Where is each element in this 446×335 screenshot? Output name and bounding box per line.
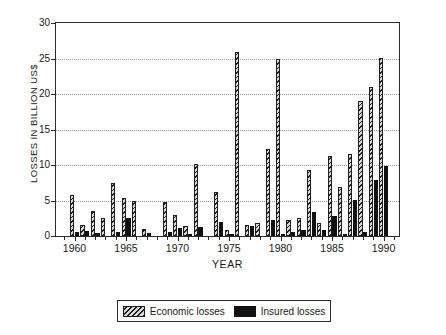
loss-bar-chart-figure: LOSSES IN BILLION US$ 051015202530196019…	[0, 0, 446, 335]
bar-insured-losses	[198, 227, 202, 236]
bar-insured-losses	[374, 180, 378, 236]
bar-insured-losses	[85, 231, 89, 236]
x-axis-minor-tick	[363, 236, 364, 240]
bar-economic-losses	[328, 156, 332, 236]
y-axis-tick	[51, 23, 56, 24]
x-axis-tick	[281, 236, 282, 241]
bar-economic-losses	[91, 211, 95, 236]
x-axis-minor-tick	[167, 236, 168, 240]
x-axis-minor-tick	[147, 236, 148, 240]
bar-economic-losses	[142, 229, 146, 236]
bar-economic-losses	[307, 170, 311, 236]
bar-insured-losses	[301, 230, 305, 236]
bar-economic-losses	[276, 59, 280, 236]
x-axis-tick	[384, 236, 385, 241]
x-axis-minor-tick	[322, 236, 323, 240]
y-axis-tick	[51, 165, 56, 166]
bar-economic-losses	[163, 202, 167, 236]
bar-economic-losses	[358, 101, 362, 236]
y-axis-tick-label: 0	[22, 231, 50, 241]
y-axis-tick	[51, 130, 56, 131]
x-axis-tick-label: 1985	[312, 242, 352, 254]
y-axis-tick-label: 15	[22, 125, 50, 135]
bar-insured-losses	[322, 230, 326, 236]
bar-economic-losses	[70, 195, 74, 236]
plot-area: 0510152025301960196519701975198019851990	[55, 22, 400, 237]
bar-economic-losses	[255, 223, 259, 236]
bar-insured-losses	[343, 234, 347, 236]
bar-insured-losses	[271, 220, 275, 236]
x-axis-minor-tick	[64, 236, 65, 240]
bar-insured-losses	[281, 234, 285, 236]
y-axis-tick-label: 20	[22, 89, 50, 99]
gridline	[56, 94, 399, 95]
x-axis-minor-tick	[260, 236, 261, 240]
gridline	[56, 130, 399, 131]
bar-economic-losses	[297, 218, 301, 236]
y-axis-tick-label: 30	[22, 18, 50, 28]
y-axis-tick	[51, 94, 56, 95]
bar-economic-losses	[194, 164, 198, 236]
x-axis-minor-tick	[291, 236, 292, 240]
y-axis-tick	[51, 236, 56, 237]
bar-insured-losses	[384, 166, 388, 236]
legend-item-insured-losses: Insured losses	[234, 306, 325, 317]
x-axis-minor-tick	[301, 236, 302, 240]
x-axis-minor-tick	[208, 236, 209, 240]
bar-insured-losses	[332, 216, 336, 236]
y-axis-tick	[51, 59, 56, 60]
x-axis-minor-tick	[353, 236, 354, 240]
bar-insured-losses	[291, 232, 295, 236]
x-axis-tick	[332, 236, 333, 241]
x-axis-tick	[178, 236, 179, 241]
x-axis-tick	[75, 236, 76, 241]
bar-economic-losses	[183, 226, 187, 236]
x-axis-minor-tick	[394, 236, 395, 240]
bar-economic-losses	[80, 225, 84, 236]
x-axis-tick	[126, 236, 127, 241]
x-axis-minor-tick	[250, 236, 251, 240]
chart-legend: Economic losses Insured losses	[117, 300, 331, 322]
plot-inner: 0510152025301960196519701975198019851990	[56, 23, 399, 236]
solid-black-swatch-icon	[234, 306, 256, 317]
bar-insured-losses	[219, 222, 223, 236]
bar-insured-losses	[188, 234, 192, 236]
x-axis-tick-label: 1980	[261, 242, 301, 254]
bar-insured-losses	[147, 233, 151, 236]
legend-label-insured-losses: Insured losses	[261, 306, 325, 317]
bar-economic-losses	[317, 223, 321, 236]
bar-insured-losses	[229, 234, 233, 236]
legend-label-economic-losses: Economic losses	[150, 306, 225, 317]
x-axis-minor-tick	[136, 236, 137, 240]
x-axis-minor-tick	[116, 236, 117, 240]
y-axis-tick	[51, 201, 56, 202]
x-axis-tick-label: 1970	[158, 242, 198, 254]
bar-insured-losses	[116, 232, 120, 236]
bar-economic-losses	[235, 52, 239, 236]
x-axis-minor-tick	[219, 236, 220, 240]
gridline	[56, 59, 399, 60]
bar-insured-losses	[353, 200, 357, 236]
legend-item-economic-losses: Economic losses	[123, 306, 225, 317]
y-axis-tick-label: 10	[22, 160, 50, 170]
x-axis-tick-label: 1990	[364, 242, 404, 254]
bar-economic-losses	[369, 87, 373, 236]
bar-insured-losses	[168, 232, 172, 236]
bar-economic-losses	[286, 220, 290, 236]
x-axis-minor-tick	[157, 236, 158, 240]
bar-insured-losses	[75, 232, 79, 236]
x-axis-minor-tick	[85, 236, 86, 240]
x-axis-minor-tick	[342, 236, 343, 240]
x-axis-minor-tick	[95, 236, 96, 240]
x-axis-tick-label: 1965	[106, 242, 146, 254]
bar-economic-losses	[122, 198, 126, 236]
y-axis-tick-label: 25	[22, 54, 50, 64]
x-axis-title: YEAR	[55, 258, 400, 270]
bar-economic-losses	[214, 192, 218, 236]
bar-economic-losses	[245, 225, 249, 236]
x-axis-minor-tick	[239, 236, 240, 240]
x-axis-tick-label: 1975	[209, 242, 249, 254]
x-axis-minor-tick	[188, 236, 189, 240]
bar-economic-losses	[338, 187, 342, 236]
x-axis-minor-tick	[311, 236, 312, 240]
